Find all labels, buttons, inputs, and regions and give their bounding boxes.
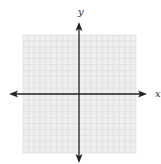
- x-axis-label: x: [155, 88, 161, 99]
- coordinate-plane: x y: [0, 0, 161, 164]
- y-axis-label: y: [77, 6, 84, 17]
